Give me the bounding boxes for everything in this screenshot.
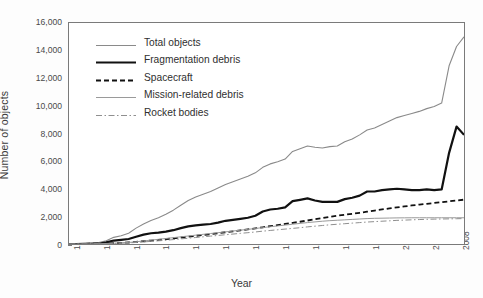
y-tick-label: 8,000	[2, 129, 62, 139]
legend-swatch-icon	[95, 107, 137, 118]
y-tick-label: 16,000	[2, 17, 62, 27]
legend-label: Spacecraft	[144, 72, 193, 83]
legend-swatch-icon	[95, 72, 137, 83]
legend-swatch-icon	[95, 54, 137, 65]
legend-swatch-icon	[95, 89, 137, 100]
legend-label: Rocket bodies	[144, 107, 209, 118]
y-tick-label: 4,000	[2, 184, 62, 194]
series-line	[69, 127, 464, 244]
legend-item: Total objects	[95, 36, 244, 49]
y-tick-label: 10,000	[2, 101, 62, 111]
series-line	[69, 219, 464, 244]
y-tick-label: 6,000	[2, 156, 62, 166]
y-tick-label: 12,000	[2, 73, 62, 83]
legend-item: Fragmentation debris	[95, 53, 244, 66]
legend-label: Mission-related debris	[144, 89, 244, 100]
y-tick-label: 14,000	[2, 45, 62, 55]
chart-figure: Number of objects 02,0004,0006,0008,0001…	[0, 0, 483, 298]
x-axis-title: Year	[0, 277, 483, 289]
legend-item: Rocket bodies	[95, 106, 244, 119]
legend-item: Mission-related debris	[95, 88, 244, 101]
y-tick-label: 2,000	[2, 212, 62, 222]
chart-legend: Total objectsFragmentation debrisSpacecr…	[95, 36, 244, 119]
y-tick-label: 0	[2, 240, 62, 250]
series-line	[69, 200, 464, 244]
legend-swatch-icon	[95, 37, 137, 48]
legend-label: Fragmentation debris	[144, 54, 240, 65]
legend-item: Spacecraft	[95, 71, 244, 84]
legend-label: Total objects	[144, 37, 201, 48]
